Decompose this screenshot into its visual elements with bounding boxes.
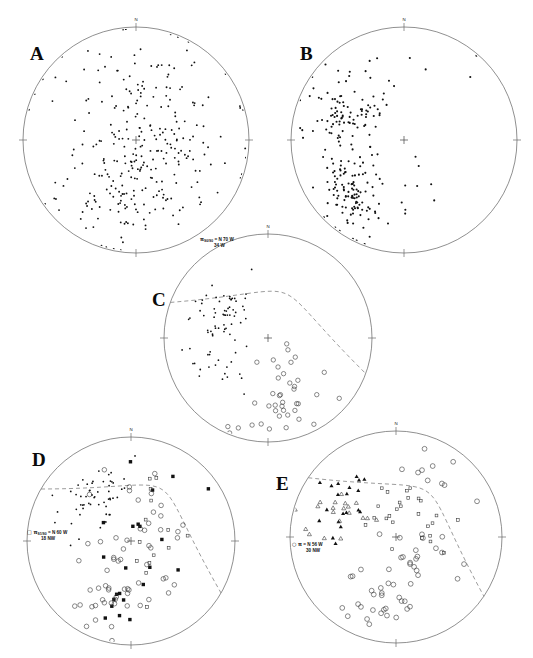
data-point	[184, 154, 186, 156]
data-point	[215, 327, 217, 329]
data-point	[85, 227, 87, 229]
data-point	[98, 504, 100, 506]
data-point	[357, 207, 359, 209]
data-point	[345, 206, 347, 208]
data-point	[111, 132, 113, 134]
data-point	[339, 102, 341, 104]
data-point	[83, 130, 85, 132]
data-point	[360, 108, 362, 110]
data-point	[143, 139, 145, 141]
data-point	[189, 317, 191, 319]
data-point	[112, 196, 114, 198]
data-point	[130, 176, 132, 178]
data-point	[189, 139, 191, 141]
data-point	[102, 555, 105, 558]
data-point	[383, 92, 385, 94]
data-point	[352, 181, 354, 183]
data-point	[104, 169, 106, 171]
data-point	[91, 208, 93, 210]
data-point	[186, 157, 188, 159]
data-point	[140, 146, 142, 148]
data-point	[339, 145, 341, 147]
data-point	[361, 99, 363, 101]
data-point	[404, 209, 406, 211]
data-point	[181, 349, 183, 351]
pi-axis-annotation-d: □ πS1/S0 = N 60 W18 NW	[27, 529, 67, 542]
data-point	[167, 198, 169, 200]
data-point	[73, 149, 75, 151]
data-point	[338, 141, 340, 143]
data-point	[348, 160, 350, 162]
data-point	[121, 185, 123, 187]
data-point	[351, 207, 353, 209]
data-point	[129, 460, 132, 463]
data-point	[337, 70, 339, 72]
data-point	[338, 81, 340, 83]
data-point	[331, 98, 333, 100]
data-point	[382, 99, 384, 101]
data-point	[210, 330, 212, 332]
data-point	[224, 314, 226, 316]
data-point	[372, 195, 374, 197]
data-point	[167, 76, 169, 78]
data-point	[316, 120, 318, 122]
data-point	[102, 481, 104, 483]
data-point	[132, 167, 134, 169]
data-point	[195, 300, 197, 302]
data-point	[169, 143, 171, 145]
data-point	[120, 195, 122, 197]
data-point	[334, 112, 336, 114]
data-point	[99, 140, 101, 142]
data-point	[362, 162, 364, 164]
data-point	[433, 199, 435, 201]
data-point	[132, 153, 134, 155]
data-point	[223, 295, 225, 297]
data-point	[320, 98, 322, 100]
data-point	[55, 198, 57, 200]
data-point	[124, 207, 126, 209]
data-point	[207, 146, 209, 148]
data-point	[205, 295, 207, 297]
data-point	[344, 168, 346, 170]
data-point	[163, 158, 165, 160]
data-point	[345, 196, 347, 198]
data-point	[176, 121, 178, 123]
data-point	[198, 375, 200, 377]
data-point	[173, 133, 175, 135]
stereonet-plate: NANBNCπS0/S0 = N 70 W34 WND□ πS1/S0 = N …	[0, 0, 533, 658]
data-point	[143, 219, 145, 221]
data-point	[393, 85, 395, 87]
data-point	[239, 105, 241, 107]
data-point	[241, 377, 243, 379]
data-point	[118, 211, 120, 213]
data-point	[134, 177, 136, 179]
data-point	[199, 203, 201, 205]
data-point	[365, 116, 367, 118]
data-point	[373, 105, 375, 107]
data-point	[214, 325, 216, 327]
data-point	[201, 299, 203, 301]
data-point	[150, 65, 152, 67]
data-point	[120, 175, 122, 177]
data-point	[161, 189, 163, 191]
data-point	[349, 71, 351, 73]
data-point	[359, 156, 361, 158]
data-point	[352, 212, 354, 214]
data-point	[70, 490, 72, 492]
data-point	[352, 189, 354, 191]
data-point	[113, 134, 115, 136]
data-point	[65, 80, 67, 82]
data-point	[335, 121, 337, 123]
data-point	[116, 160, 118, 162]
data-point	[340, 164, 342, 166]
data-point	[97, 69, 99, 71]
data-point	[301, 129, 303, 131]
data-point	[122, 241, 124, 243]
data-point	[352, 135, 354, 137]
data-point	[378, 203, 380, 205]
data-point	[118, 191, 120, 193]
data-point	[218, 359, 220, 361]
data-point	[88, 112, 90, 114]
data-point	[134, 54, 136, 56]
data-point	[141, 155, 143, 157]
